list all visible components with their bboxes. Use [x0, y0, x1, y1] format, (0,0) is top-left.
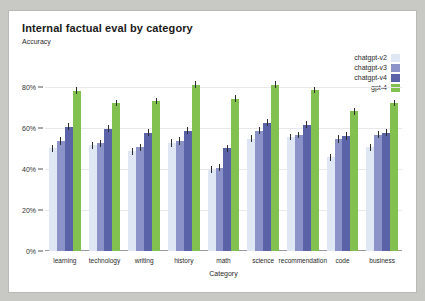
bar[interactable] — [104, 129, 112, 251]
bar-slot[interactable] — [112, 66, 120, 251]
bar-slot[interactable] — [366, 66, 374, 251]
bar-slot[interactable] — [184, 66, 192, 251]
bar[interactable] — [57, 141, 65, 251]
bar[interactable] — [303, 125, 311, 251]
y-axis-tick-label: 80% — [22, 83, 36, 90]
x-axis-tick-label: history — [174, 257, 193, 264]
bar-slot[interactable] — [350, 66, 358, 251]
bar[interactable] — [255, 131, 263, 251]
error-bar — [187, 127, 188, 134]
error-bar — [235, 95, 236, 102]
y-axis-tick-label: 60% — [22, 124, 36, 131]
chart-card: Internal factual eval by category Accura… — [8, 10, 417, 293]
bar-slot[interactable] — [382, 66, 390, 251]
bar[interactable] — [128, 151, 136, 251]
bar[interactable] — [350, 111, 358, 251]
bar[interactable] — [342, 136, 350, 251]
bar[interactable] — [335, 139, 343, 251]
bar[interactable] — [287, 137, 295, 251]
bar-slot[interactable] — [390, 66, 398, 251]
error-bar — [148, 129, 149, 136]
bar-group: history — [164, 66, 204, 251]
error-bar — [251, 135, 252, 142]
x-axis-tick-label: recommendation — [279, 257, 327, 264]
bar-slot[interactable] — [231, 66, 239, 251]
bar[interactable] — [89, 145, 97, 251]
bar-group: science — [243, 66, 283, 251]
bar-slot[interactable] — [57, 66, 65, 251]
bar-slot[interactable] — [295, 66, 303, 251]
bar[interactable] — [390, 103, 398, 251]
legend-label: chatgpt-v2 — [354, 54, 387, 61]
bar-slot[interactable] — [335, 66, 343, 251]
x-axis-title: Category — [209, 270, 237, 277]
bar[interactable] — [73, 91, 81, 251]
bar[interactable] — [176, 141, 184, 251]
bar-slot[interactable] — [104, 66, 112, 251]
bar[interactable] — [97, 143, 105, 251]
bar[interactable] — [247, 139, 255, 251]
y-axis-tick — [38, 168, 43, 169]
error-bar — [179, 137, 180, 144]
bar-slot[interactable] — [311, 66, 319, 251]
bar[interactable] — [295, 135, 303, 251]
bar[interactable] — [223, 148, 231, 251]
bar-slot[interactable] — [152, 66, 160, 251]
bar[interactable] — [208, 170, 216, 251]
bar-slot[interactable] — [192, 66, 200, 251]
bar[interactable] — [382, 133, 390, 251]
bar-slot[interactable] — [216, 66, 224, 251]
bar-slot[interactable] — [263, 66, 271, 251]
bar-slot[interactable] — [73, 66, 81, 251]
bar-group: writing — [124, 66, 164, 251]
legend-swatch-icon — [391, 54, 400, 62]
bar[interactable] — [112, 103, 120, 251]
bar-slot[interactable] — [327, 66, 335, 251]
legend-item[interactable]: chatgpt-v2 — [354, 53, 400, 62]
bar-slot[interactable] — [342, 66, 350, 251]
error-bar — [60, 137, 61, 144]
error-bar — [338, 135, 339, 142]
bar-slot[interactable] — [247, 66, 255, 251]
bar-slot[interactable] — [287, 66, 295, 251]
bar[interactable] — [168, 143, 176, 251]
bar-slot[interactable] — [303, 66, 311, 251]
bar-slot[interactable] — [136, 66, 144, 251]
bar-slot[interactable] — [97, 66, 105, 251]
page-title: Internal factual eval by category — [22, 22, 193, 34]
bar-slot[interactable] — [223, 66, 231, 251]
bar[interactable] — [327, 157, 335, 251]
bar-slot[interactable] — [144, 66, 152, 251]
bar-slot[interactable] — [65, 66, 73, 251]
bar[interactable] — [216, 168, 224, 251]
bar[interactable] — [49, 148, 57, 251]
bar-slot[interactable] — [374, 66, 382, 251]
bar-slot[interactable] — [208, 66, 216, 251]
error-bar — [386, 129, 387, 136]
bar[interactable] — [311, 90, 319, 251]
bar[interactable] — [136, 147, 144, 251]
y-axis-tick — [38, 251, 43, 252]
bar[interactable] — [65, 127, 73, 251]
bar-slot[interactable] — [168, 66, 176, 251]
error-bar — [68, 123, 69, 130]
bar-slot[interactable] — [128, 66, 136, 251]
error-bar — [267, 119, 268, 126]
bar[interactable] — [231, 99, 239, 251]
bar[interactable] — [184, 131, 192, 251]
bar[interactable] — [152, 101, 160, 251]
bar-slot[interactable] — [271, 66, 279, 251]
bar[interactable] — [271, 85, 279, 252]
bar-slot[interactable] — [89, 66, 97, 251]
bar[interactable] — [263, 123, 271, 251]
error-bar — [108, 125, 109, 132]
bar[interactable] — [366, 147, 374, 251]
bar[interactable] — [144, 133, 152, 251]
x-axis-tick-label: science — [252, 257, 274, 264]
error-bar — [156, 98, 157, 105]
bar-slot[interactable] — [49, 66, 57, 251]
bar-slot[interactable] — [255, 66, 263, 251]
bar[interactable] — [192, 85, 200, 252]
bar[interactable] — [374, 135, 382, 251]
bar-slot[interactable] — [176, 66, 184, 251]
